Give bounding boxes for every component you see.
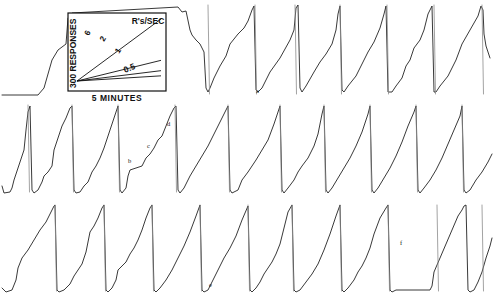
annotation-label-a: a bbox=[256, 87, 259, 94]
legend-x-axis-label: 5 MINUTES bbox=[92, 93, 143, 103]
annotation-label-c: c bbox=[147, 142, 150, 149]
annotation-label-e: e bbox=[209, 281, 212, 288]
annotation-label-b: b bbox=[128, 157, 131, 164]
cumulative-record-plot: 300 RESPONSES 5 MINUTES R's/SEC 6 2 1 0.… bbox=[0, 0, 494, 301]
legend-box: 300 RESPONSES 5 MINUTES R's/SEC 6 2 1 0.… bbox=[68, 13, 166, 103]
cumulative-record-figure: 300 RESPONSES 5 MINUTES R's/SEC 6 2 1 0.… bbox=[0, 0, 494, 301]
legend-rate-unit-label: R's/SEC bbox=[132, 16, 165, 26]
legend-y-axis-label: 300 RESPONSES bbox=[68, 18, 78, 88]
